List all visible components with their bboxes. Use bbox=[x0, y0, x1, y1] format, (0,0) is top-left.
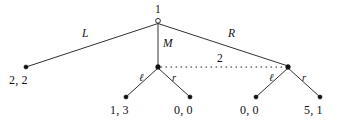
game-tree-figure: 1 L M R 2 ℓ r ℓ r 2, 2 1, 3 0, 0 0, 0 5,… bbox=[0, 0, 346, 126]
terminal-node-dot bbox=[254, 95, 258, 99]
payoff-label: 0, 0 bbox=[240, 104, 259, 116]
edge-root-R bbox=[158, 24, 288, 67]
action-label-M: M bbox=[163, 38, 173, 50]
payoff-label: 5, 1 bbox=[304, 104, 323, 116]
action-label-left-ell: ℓ bbox=[139, 73, 143, 84]
action-label-R: R bbox=[228, 28, 235, 40]
game-tree-canvas bbox=[0, 0, 346, 126]
payoff-label: 0, 0 bbox=[174, 104, 193, 116]
edge-root-L bbox=[26, 24, 158, 68]
information-set-label: 2 bbox=[217, 53, 223, 65]
decision-node-player1-root bbox=[156, 18, 161, 23]
decision-node-player2-left bbox=[156, 65, 161, 70]
payoff-label: 1, 3 bbox=[110, 104, 129, 116]
payoff-label: 2, 2 bbox=[9, 74, 28, 86]
terminal-node-dot bbox=[124, 95, 128, 99]
action-label-right-ell: ℓ bbox=[269, 73, 273, 84]
terminal-node-dot bbox=[24, 65, 28, 69]
player-label-root: 1 bbox=[155, 4, 161, 16]
terminal-node-dot bbox=[188, 95, 192, 99]
action-label-right-r: r bbox=[302, 73, 306, 84]
terminal-node-dot bbox=[318, 95, 322, 99]
action-label-left-r: r bbox=[172, 73, 176, 84]
action-label-L: L bbox=[82, 28, 88, 40]
decision-node-player2-right bbox=[286, 65, 291, 70]
